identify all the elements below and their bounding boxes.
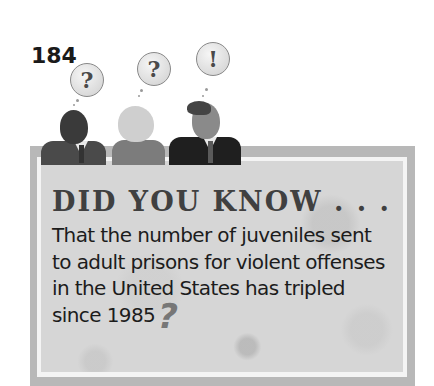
callout-line: in the United States has tripled — [52, 275, 385, 302]
thought-glyph: ? — [148, 56, 161, 82]
callout-line: to adult prisons for violent offenses — [52, 249, 385, 276]
thought-dot — [76, 99, 79, 102]
question-mark-icon: ? — [70, 63, 104, 97]
tie — [79, 145, 84, 163]
callout-line-last: since 1985? — [52, 302, 385, 329]
callout-line: That the number of juveniles sent — [52, 222, 385, 249]
sweater — [112, 140, 165, 165]
thought-dot — [140, 89, 143, 92]
thought-dot — [205, 88, 208, 91]
suit — [41, 141, 106, 165]
callout-body: That the number of juveniles sent to adu… — [52, 222, 385, 328]
thought-dot — [202, 95, 204, 97]
callout-line-text: since 1985 — [52, 303, 155, 327]
thought-dot — [138, 95, 140, 97]
tie — [208, 141, 213, 163]
question-mark-icon: ? — [156, 306, 179, 326]
thought-dot — [73, 104, 75, 106]
thought-glyph: ? — [81, 67, 94, 93]
suit — [169, 137, 241, 165]
hair — [187, 101, 211, 115]
head — [60, 110, 88, 144]
head — [118, 106, 154, 142]
page-number: 184 — [31, 43, 77, 68]
question-mark-icon: ? — [137, 52, 171, 86]
lightbulb-icon: ! — [196, 42, 230, 76]
callout-heading: DID YOU KNOW . . . — [52, 186, 391, 217]
thought-glyph: ! — [208, 46, 218, 72]
